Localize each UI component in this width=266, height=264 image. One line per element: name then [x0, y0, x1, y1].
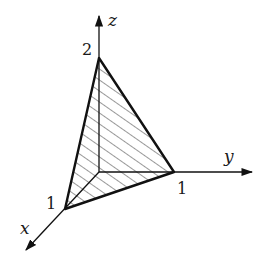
x-axis-label: x [20, 218, 30, 238]
z-intercept-label: 2 [82, 40, 92, 59]
x-axis [26, 172, 99, 250]
tetrahedron-diagram: z y x 2 1 1 [0, 0, 266, 264]
z-axis-label: z [107, 10, 118, 30]
y-intercept-label: 1 [177, 179, 187, 198]
x-intercept-label: 1 [46, 194, 56, 213]
y-axis-label: y [223, 146, 234, 166]
